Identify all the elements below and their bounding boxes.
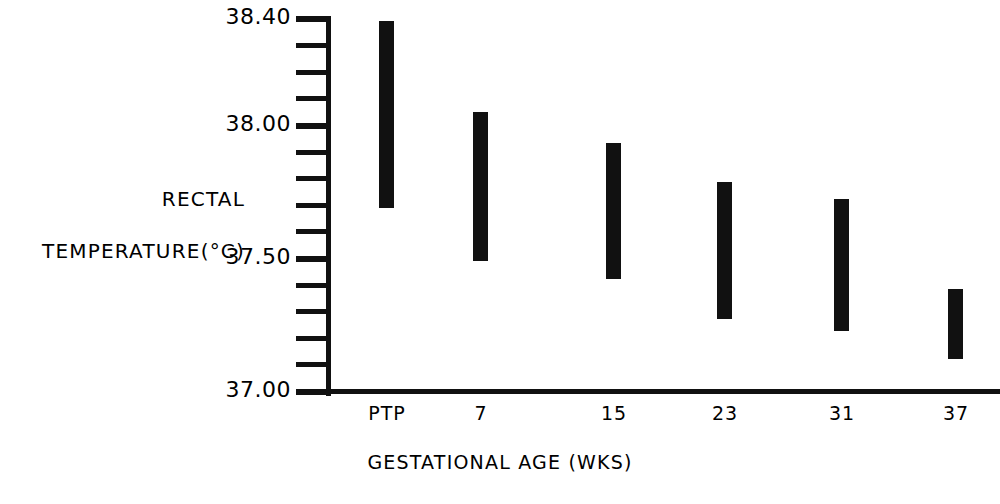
y-tick-label-38-40: 38.40 — [136, 4, 291, 29]
range-bar-23 — [717, 182, 732, 319]
x-tick-label-23: 23 — [684, 402, 766, 424]
y-minor-tick-38-10 — [296, 96, 331, 101]
y-minor-tick-37-10 — [296, 362, 331, 367]
range-bar-31 — [834, 199, 849, 331]
y-minor-tick-37-20 — [296, 336, 331, 341]
x-tick-label-ptp: PTP — [346, 402, 428, 424]
y-minor-tick-37-60 — [296, 229, 331, 234]
x-tick-label-15: 15 — [573, 402, 655, 424]
y-tick-label-37-00: 37.00 — [136, 377, 291, 402]
y-axis-title-line1: RECTAL — [10, 186, 245, 212]
x-tick-label-7: 7 — [440, 402, 522, 424]
y-minor-tick-37-80 — [296, 176, 331, 181]
y-axis-title: RECTAL TEMPERATURE(°C) — [10, 160, 245, 290]
y-minor-tick-37-70 — [296, 203, 331, 208]
range-bar-ptp — [379, 21, 394, 208]
y-tick-label-38-00: 38.00 — [136, 111, 291, 136]
x-axis-spine — [326, 389, 1000, 394]
range-bar-7 — [473, 112, 488, 261]
y-tick-38-40 — [296, 16, 331, 22]
x-tick-label-37: 37 — [915, 402, 997, 424]
y-minor-tick-37-40 — [296, 283, 331, 288]
y-minor-tick-38-30 — [296, 43, 331, 48]
y-tick-38-00 — [296, 123, 331, 129]
range-bar-37 — [948, 289, 963, 359]
y-minor-tick-37-30 — [296, 309, 331, 314]
y-minor-tick-37-90 — [296, 150, 331, 155]
range-bar-15 — [606, 143, 621, 279]
y-tick-37-50 — [296, 256, 331, 262]
y-tick-37-00 — [296, 389, 331, 395]
y-minor-tick-38-20 — [296, 70, 331, 75]
y-tick-label-37-50: 37.50 — [136, 244, 291, 269]
x-axis-title: GESTATIONAL AGE (WKS) — [0, 451, 1000, 473]
chart-figure: RECTAL TEMPERATURE(°C) 38.40 38.00 37.50… — [0, 0, 1000, 504]
x-tick-label-31: 31 — [801, 402, 883, 424]
